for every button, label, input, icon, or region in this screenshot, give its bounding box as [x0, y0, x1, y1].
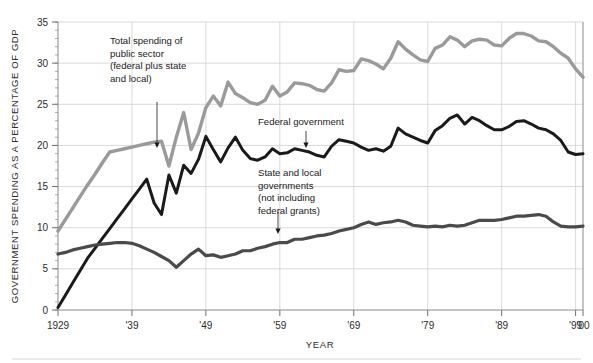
y-tick-label: 30	[37, 58, 49, 69]
x-tick-label: '39	[125, 320, 138, 331]
y-tick-label: 35	[37, 17, 49, 28]
annotations-group: Total spending ofpublic sector(federal p…	[110, 35, 344, 234]
x-tick-label: '49	[199, 320, 212, 331]
x-gridlines-group	[132, 22, 576, 310]
government-spending-line-chart: 05101520253035 1929'39'49'59'69'79'89'99…	[0, 0, 593, 363]
y-tick-labels-group: 05101520253035	[37, 17, 49, 316]
y-tick-label: 0	[42, 305, 48, 316]
annotation-state-local-governments: State and localgovernments(not including…	[258, 167, 321, 234]
y-tick-label: 15	[37, 181, 49, 192]
y-tick-label: 5	[42, 263, 48, 274]
annotation-total-spending: Total spending ofpublic sector(federal p…	[110, 35, 186, 148]
x-tick-label: '79	[421, 320, 434, 331]
x-tick-label: '59	[273, 320, 286, 331]
annotation-label: State and localgovernments(not including…	[258, 167, 321, 216]
y-axis-title: GOVERNMENT SPENDING AS A PERCENTAGE OF G…	[9, 29, 20, 304]
x-tick-label: '89	[495, 320, 508, 331]
chart-figure: 05101520253035 1929'39'49'59'69'79'89'99…	[0, 0, 593, 363]
x-tick-label: 1929	[47, 320, 70, 331]
annotation-label: Total spending ofpublic sector(federal p…	[110, 35, 186, 84]
y-tick-label: 20	[37, 140, 49, 151]
x-tick-label: '00	[576, 320, 589, 331]
series-line-2	[58, 215, 583, 268]
y-tick-label: 10	[37, 222, 49, 233]
y-tick-label: 25	[37, 99, 49, 110]
x-axis-title: YEAR	[306, 339, 334, 350]
x-tick-label: '69	[347, 320, 360, 331]
annotation-label: Federal government	[258, 116, 344, 127]
annotation-federal-government: Federal government	[258, 116, 344, 148]
x-tick-labels-group: 1929'39'49'59'69'79'89'99'00	[47, 320, 590, 331]
series-line-1	[58, 115, 583, 308]
